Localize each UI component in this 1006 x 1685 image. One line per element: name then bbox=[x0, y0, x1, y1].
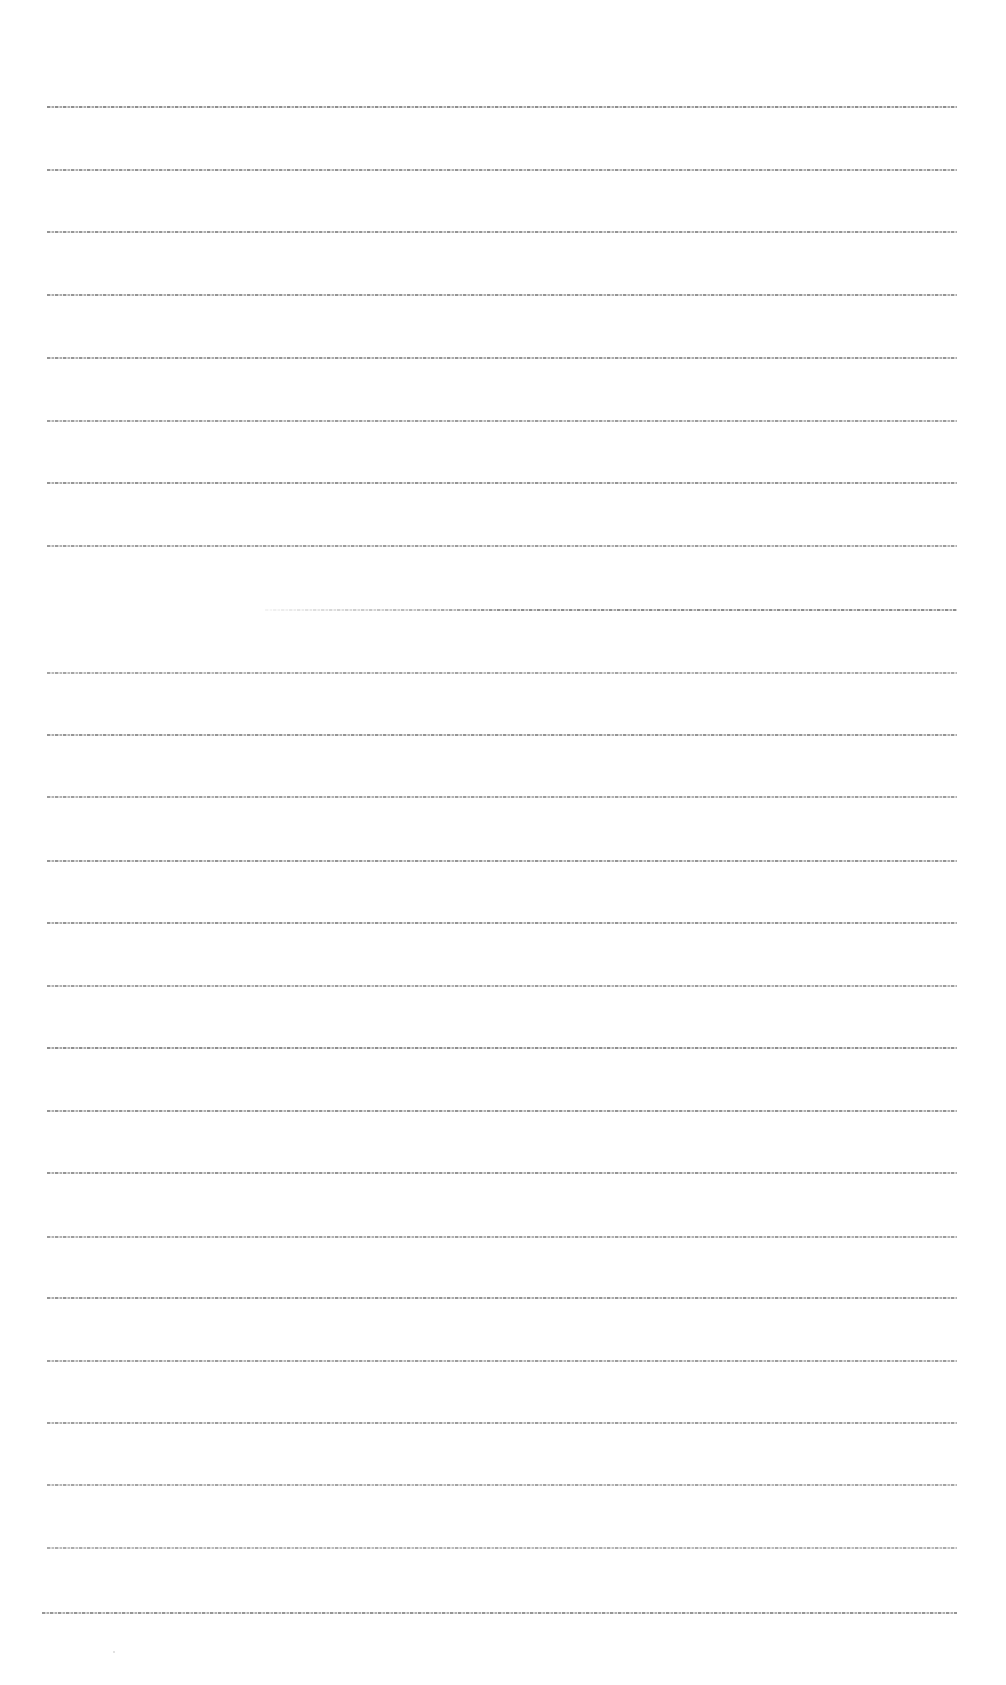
text-line bbox=[47, 231, 957, 233]
text-line bbox=[47, 985, 957, 987]
text-line bbox=[47, 420, 957, 422]
text-line bbox=[47, 1047, 957, 1049]
text-line bbox=[47, 294, 957, 296]
text-line bbox=[47, 1236, 957, 1238]
text-line bbox=[47, 357, 957, 359]
text-line bbox=[47, 796, 957, 798]
text-line bbox=[47, 545, 957, 547]
text-line bbox=[47, 1297, 957, 1299]
text-line bbox=[47, 106, 957, 108]
text-line bbox=[47, 734, 957, 736]
text-line bbox=[42, 1612, 957, 1614]
text-line bbox=[47, 1422, 957, 1424]
text-line bbox=[265, 609, 957, 611]
document-page bbox=[0, 0, 1006, 1685]
text-line bbox=[47, 1172, 957, 1174]
text-line bbox=[47, 169, 957, 171]
text-line bbox=[47, 1547, 957, 1549]
text-line bbox=[47, 1484, 957, 1486]
text-line bbox=[47, 672, 957, 674]
text-line bbox=[47, 1110, 957, 1112]
text-line bbox=[47, 922, 957, 924]
text-line bbox=[47, 860, 957, 862]
text-line bbox=[47, 482, 957, 484]
stray-mark bbox=[113, 1651, 115, 1653]
text-line bbox=[47, 1360, 957, 1362]
